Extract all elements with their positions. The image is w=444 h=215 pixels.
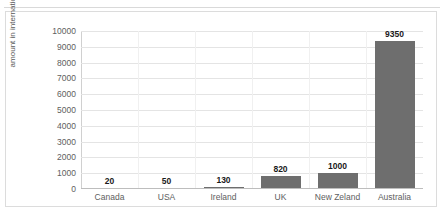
bar-slot: 9350 — [366, 31, 423, 189]
x-axis-category-label: New Zeland — [309, 192, 366, 202]
x-axis-category-label: UK — [252, 192, 309, 202]
x-axis-category-label: Canada — [81, 192, 138, 202]
x-axis-category-label: Australia — [366, 192, 423, 202]
y-axis-tick-labels: 1000090008000700060005000400030002000100… — [32, 31, 78, 189]
bar-data-label: 130 — [216, 175, 230, 185]
y-axis-tick-label: 5000 — [57, 106, 76, 115]
bar-data-label: 9350 — [385, 29, 404, 39]
y-axis-tick-label: 2000 — [57, 153, 76, 162]
y-axis-tick-label: 3000 — [57, 138, 76, 147]
y-axis-tick-label: 9000 — [57, 43, 76, 52]
bar-slot: 20 — [81, 31, 138, 189]
bar-slot: 130 — [195, 31, 252, 189]
bar-slot: 820 — [252, 31, 309, 189]
bar-data-label: 820 — [273, 164, 287, 174]
x-axis-category-label: USA — [138, 192, 195, 202]
bar-slot: 1000 — [309, 31, 366, 189]
y-axis-tick-label: 4000 — [57, 122, 76, 131]
x-axis-category-label: Ireland — [195, 192, 252, 202]
y-axis-title: amount in international dollars — [6, 0, 20, 74]
y-axis-tick-label: 1000 — [57, 169, 76, 178]
header-divider — [4, 7, 440, 8]
chart-container: amount in international dollars 10000900… — [5, 11, 437, 207]
bar-slot: 50 — [138, 31, 195, 189]
bar[interactable]: 1000 — [318, 173, 358, 189]
y-axis-tick-label: 0 — [71, 185, 76, 194]
x-axis-line — [81, 188, 423, 189]
y-axis-tick-label: 8000 — [57, 59, 76, 68]
y-axis-tick-label: 7000 — [57, 74, 76, 83]
y-axis-tick-label: 10000 — [52, 27, 76, 36]
y-axis-tick-label: 6000 — [57, 90, 76, 99]
bar-data-label: 20 — [105, 176, 114, 186]
chart-screenshot: amount in international dollars 10000900… — [0, 0, 444, 215]
bar-data-label: 1000 — [328, 161, 347, 171]
bar-series: 205013082010009350 — [81, 31, 423, 189]
bar-data-label: 50 — [162, 176, 171, 186]
x-axis-category-labels: CanadaUSAIrelandUKNew ZelandAustralia — [81, 192, 423, 202]
plot-area: 205013082010009350 — [81, 31, 423, 189]
bar[interactable]: 9350 — [375, 41, 415, 189]
